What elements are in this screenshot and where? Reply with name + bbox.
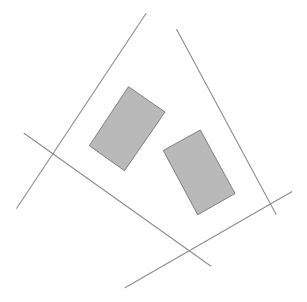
diagram-canvas xyxy=(0,0,307,302)
rect-2 xyxy=(163,130,235,215)
boundary-lines xyxy=(17,14,292,288)
diagram-svg xyxy=(0,0,307,302)
rect-1 xyxy=(89,87,165,171)
